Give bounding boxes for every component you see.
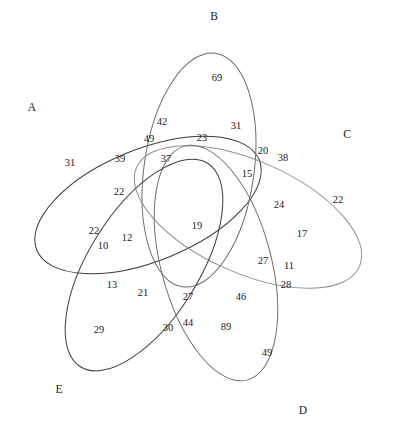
set-label-B: B	[210, 11, 218, 23]
region-value: 27	[258, 256, 269, 267]
set-label-D: D	[299, 405, 307, 417]
region-value: 37	[161, 154, 172, 165]
region-value: 46	[236, 292, 247, 303]
set-label-C: C	[343, 129, 351, 141]
region-value: 11	[284, 261, 294, 272]
region-value: 23	[197, 133, 208, 144]
region-value: 12	[122, 233, 133, 244]
region-value: 19	[192, 221, 203, 232]
set-label-E: E	[55, 384, 62, 396]
region-value: 89	[221, 322, 232, 333]
region-value: 44	[183, 318, 194, 329]
region-value: 21	[138, 288, 149, 299]
region-value: 20	[258, 146, 269, 157]
region-value: 15	[242, 169, 253, 180]
region-value: 38	[278, 153, 289, 164]
region-value: 27	[183, 292, 194, 303]
venn-ellipses-canvas	[0, 0, 398, 428]
region-value: 22	[89, 226, 100, 237]
region-value: 10	[98, 241, 109, 252]
region-value: 17	[297, 229, 308, 240]
region-value: 13	[107, 280, 118, 291]
region-value: 29	[94, 325, 105, 336]
region-value: 31	[231, 121, 242, 132]
region-value: 30	[163, 323, 174, 334]
set-label-A: A	[28, 102, 36, 114]
region-value: 39	[115, 154, 126, 165]
region-value: 31	[65, 158, 76, 169]
region-value: 69	[212, 73, 223, 84]
region-value: 22	[114, 187, 125, 198]
region-value: 24	[274, 200, 285, 211]
region-value: 22	[333, 195, 344, 206]
region-value: 28	[281, 280, 292, 291]
region-value: 49	[144, 134, 155, 145]
region-value: 42	[157, 117, 168, 128]
venn-diagram-figure: 3169222949424923312038393715222419172212…	[0, 0, 398, 428]
region-value: 49	[262, 348, 273, 359]
